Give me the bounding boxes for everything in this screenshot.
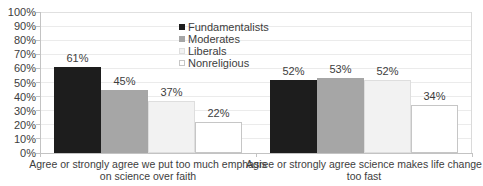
legend: FundamentalistsModeratesLiberalsNonrelig…	[179, 21, 269, 69]
plot-border-top	[40, 12, 472, 13]
legend-item-liberals: Liberals	[179, 45, 269, 57]
y-axis-tick-label: 10%	[0, 133, 36, 145]
x-axis-tick	[40, 153, 41, 157]
bar-value-label: 22%	[194, 107, 244, 120]
legend-label: Liberals	[188, 45, 227, 57]
legend-item-nonreligious: Nonreligious	[179, 57, 269, 69]
bar-fundamentalists-0	[54, 67, 101, 153]
bar-liberals-0	[148, 101, 195, 153]
x-axis-category-label-line: too fast	[246, 170, 482, 182]
legend-item-moderates: Moderates	[179, 33, 269, 45]
y-axis-tick-label: 50%	[0, 77, 36, 89]
bar-liberals-1	[364, 80, 411, 153]
legend-swatch-fundamentalists	[179, 24, 185, 30]
bar-value-label: 52%	[363, 65, 413, 78]
x-axis-category-label: Agree or strongly agree we put too much …	[29, 158, 267, 182]
legend-swatch-moderates	[179, 36, 185, 42]
legend-swatch-nonreligious	[179, 60, 185, 66]
y-axis-line	[40, 12, 41, 153]
y-axis-tick-label: 80%	[0, 34, 36, 46]
y-axis-tick-label: 100%	[0, 6, 36, 18]
y-axis-tick-label: 70%	[0, 48, 36, 60]
y-axis-tick-label: 60%	[0, 62, 36, 74]
legend-item-fundamentalists: Fundamentalists	[179, 21, 269, 33]
x-axis-category-label-line: Agree or strongly agree we put too much …	[29, 158, 267, 170]
x-axis-tick	[472, 153, 473, 157]
bar-value-label: 45%	[100, 75, 150, 88]
bar-fundamentalists-1	[270, 80, 317, 153]
legend-label: Fundamentalists	[188, 21, 269, 33]
legend-label: Nonreligious	[188, 57, 249, 69]
bar-value-label: 52%	[269, 65, 319, 78]
bar-chart: 0%10%20%30%40%50%60%70%80%90%100%61%45%3…	[0, 0, 483, 186]
plot-border-right	[471, 12, 472, 153]
y-axis-tick-label: 30%	[0, 105, 36, 117]
x-axis-tick	[256, 153, 257, 157]
y-axis-tick-label: 20%	[0, 119, 36, 131]
bar-moderates-0	[101, 90, 148, 153]
x-axis-category-label-line: Agree or strongly agree science makes li…	[246, 158, 482, 170]
legend-swatch-liberals	[179, 48, 185, 54]
bar-value-label: 61%	[53, 52, 103, 65]
bar-moderates-1	[317, 78, 364, 153]
x-axis-category-label-line: on science over faith	[29, 170, 267, 182]
bar-value-label: 53%	[316, 63, 366, 76]
bar-value-label: 37%	[147, 86, 197, 99]
y-axis-tick-label: 90%	[0, 20, 36, 32]
bar-nonreligious-1	[411, 105, 458, 153]
bar-value-label: 34%	[410, 90, 460, 103]
x-axis-category-label: Agree or strongly agree science makes li…	[246, 158, 482, 182]
y-axis-tick-label: 40%	[0, 91, 36, 103]
bar-nonreligious-0	[195, 122, 242, 153]
legend-label: Moderates	[188, 33, 240, 45]
